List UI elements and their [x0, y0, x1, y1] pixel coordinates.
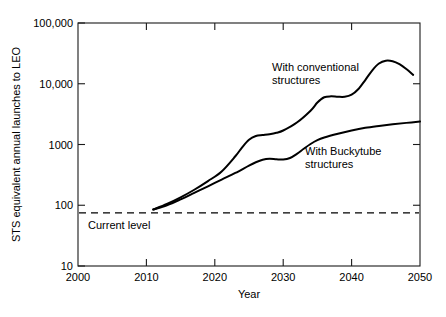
series-label-conventional-group: With conventional structures	[272, 61, 359, 86]
series-label-buckytube-line1: With Buckytube	[305, 145, 381, 157]
series-label-conventional-line2: structures	[272, 74, 321, 86]
x-tick-label-2020: 2020	[203, 271, 227, 283]
y-tick-label-100000: 100,000	[33, 17, 73, 29]
x-tick-label-2040: 2040	[339, 271, 363, 283]
x-tick-label-2000: 2000	[66, 271, 90, 283]
x-tick-label-2050: 2050	[408, 271, 432, 283]
series-label-conventional-line1: With conventional	[272, 61, 359, 73]
y-axis-title: STS equivalent annual launches to LEO	[10, 47, 22, 243]
x-tick-label-2010: 2010	[134, 271, 158, 283]
x-axis-title: Year	[238, 288, 261, 300]
current-level-label: Current level	[88, 219, 150, 231]
series-line-buckytube	[153, 122, 420, 210]
line-chart-figure: 100,000 10,000 1000 100 10 2000 2010 202…	[0, 0, 446, 317]
series-label-buckytube-line2: structures	[305, 158, 354, 170]
y-tick-label-1000: 1000	[49, 139, 73, 151]
y-tick-label-10000: 10,000	[39, 78, 73, 90]
chart-container: 100,000 10,000 1000 100 10 2000 2010 202…	[0, 0, 446, 317]
y-tick-label-100: 100	[55, 199, 73, 211]
series-label-buckytube-group: With Buckytube structures	[305, 145, 381, 170]
x-tick-label-2030: 2030	[271, 271, 295, 283]
